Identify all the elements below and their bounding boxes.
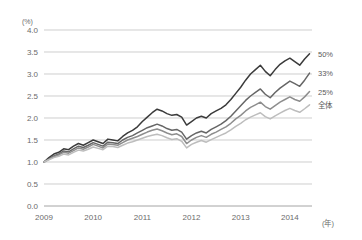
y-axis-tick-label: 2.5 bbox=[27, 92, 39, 101]
series-legend-label: 全体 bbox=[318, 100, 333, 110]
y-axis-tick-label: 3.5 bbox=[27, 48, 39, 57]
y-axis-unit-label: (%) bbox=[22, 18, 33, 26]
series-legend-label: 33% bbox=[318, 69, 333, 78]
y-axis-tick-label: 2.0 bbox=[27, 114, 39, 123]
line-chart: 0.00.51.01.52.02.53.03.54.0 200920102011… bbox=[0, 0, 362, 240]
x-axis-tick-label: 2013 bbox=[232, 213, 250, 222]
y-axis-tick-label: 4.0 bbox=[27, 26, 39, 35]
x-axis-tick-label: 2014 bbox=[281, 213, 299, 222]
x-axis-tick-label: 2010 bbox=[84, 213, 102, 222]
x-axis-tick-label: 2012 bbox=[183, 213, 201, 222]
series-legend-label: 50% bbox=[318, 50, 333, 59]
y-axis-tick-label: 3.0 bbox=[27, 70, 39, 79]
y-axis-tick-labels: 0.00.51.01.52.02.53.03.54.0 bbox=[27, 26, 39, 211]
y-axis-tick-label: 1.5 bbox=[27, 136, 39, 145]
y-axis-tick-label: 0.5 bbox=[27, 180, 39, 189]
chart-canvas: 0.00.51.01.52.02.53.03.54.0 200920102011… bbox=[0, 0, 362, 240]
y-axis-tick-label: 0.0 bbox=[27, 202, 39, 211]
x-axis-tick-labels: 200920102011201220132014 bbox=[35, 213, 299, 222]
x-axis-tick-label: 2011 bbox=[134, 213, 152, 222]
series-line bbox=[44, 54, 310, 162]
x-axis-tick-label: 2009 bbox=[35, 213, 53, 222]
x-axis-unit-label: (年) bbox=[322, 218, 334, 228]
y-axis-tick-label: 1.0 bbox=[27, 158, 39, 167]
series-lines bbox=[44, 54, 310, 162]
series-legend-labels: 50%33%25%全体 bbox=[318, 50, 333, 110]
series-legend-label: 25% bbox=[318, 88, 333, 97]
